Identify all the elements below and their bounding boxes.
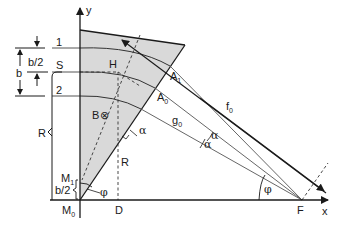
- y-axis-label: y: [86, 4, 92, 16]
- ray-2: [141, 109, 302, 200]
- bhalf-bottom-label: b/2: [55, 184, 70, 196]
- f0-label: f0: [226, 100, 233, 114]
- alpha-edge-label: α: [139, 124, 147, 137]
- phi-bottom-leader: [87, 189, 100, 193]
- ray-1: [170, 66, 302, 200]
- R-left-brace: [48, 128, 52, 136]
- phi-F-label: φ: [264, 183, 272, 196]
- beam-1-label: 1: [56, 36, 62, 48]
- alpha-edge-leader: [130, 130, 137, 136]
- point-A0-label: A0: [157, 91, 168, 105]
- R-inner-label: R: [121, 156, 129, 168]
- field-B-label: B⊗: [92, 109, 109, 121]
- x-axis-label: x: [322, 205, 328, 217]
- beam-2-label: 2: [56, 84, 62, 96]
- point-M0-label: M0: [62, 204, 75, 218]
- point-F-label: F: [297, 204, 304, 216]
- bhalf-label: b/2: [28, 56, 43, 68]
- point-S-label: S: [56, 59, 63, 71]
- dashed-perp-F: [302, 163, 328, 200]
- R-left-label: R: [38, 127, 46, 139]
- point-A1-label: A1: [170, 70, 181, 84]
- into-page-icon: ⊗: [100, 109, 109, 121]
- g0-label: g0: [172, 114, 182, 128]
- b-label: b: [16, 67, 22, 79]
- sector-diagram: y x R b b/2 1 S 2 H A1 A0 B⊗ g0 f0 α α α…: [0, 0, 338, 225]
- alpha-lower-label: α: [204, 138, 212, 151]
- alpha-upper-label: α: [211, 129, 219, 142]
- point-H-label: H: [109, 58, 117, 70]
- point-D-label: D: [115, 204, 123, 216]
- phi-bottom-label: φ: [100, 186, 108, 199]
